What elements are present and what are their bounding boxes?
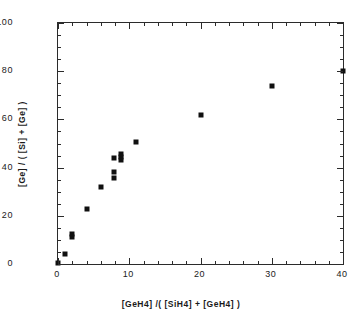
y-axis-minor-tick-right — [340, 252, 343, 253]
x-axis-minor-tick — [315, 261, 316, 264]
y-axis-major-tick-right — [337, 216, 343, 217]
x-axis-major-tick — [201, 258, 202, 264]
y-axis-minor-tick — [58, 47, 61, 48]
data-point — [70, 231, 75, 236]
y-axis-major-tick — [58, 71, 64, 72]
x-axis-tick-label: 0 — [54, 270, 60, 279]
x-axis-minor-tick-top — [315, 23, 316, 26]
x-axis-minor-tick-top — [172, 23, 173, 26]
x-axis-minor-tick-top — [329, 23, 330, 26]
x-axis-minor-tick — [87, 261, 88, 264]
data-point — [111, 176, 116, 181]
y-axis-major-tick — [58, 119, 64, 120]
x-axis-minor-tick-top — [115, 23, 116, 26]
y-axis-minor-tick — [58, 83, 61, 84]
x-axis-minor-tick — [186, 261, 187, 264]
y-axis-minor-tick — [58, 192, 61, 193]
y-axis-minor-tick — [58, 228, 61, 229]
x-axis-major-tick-top — [129, 23, 130, 29]
y-axis-minor-tick-right — [340, 59, 343, 60]
y-axis-minor-tick — [58, 204, 61, 205]
x-axis-major-tick — [129, 258, 130, 264]
x-axis-minor-tick — [300, 261, 301, 264]
y-axis-minor-tick-right — [340, 204, 343, 205]
y-axis-tick-label: 0 — [7, 259, 13, 268]
y-axis-minor-tick-right — [340, 95, 343, 96]
data-point — [198, 112, 203, 117]
x-axis-tick-label: 30 — [265, 270, 276, 279]
x-axis-minor-tick — [258, 261, 259, 264]
y-axis-major-tick — [58, 216, 64, 217]
plot-area — [57, 22, 344, 265]
x-axis-minor-tick-top — [229, 23, 230, 26]
x-axis-minor-tick — [172, 261, 173, 264]
x-axis-minor-tick — [229, 261, 230, 264]
y-axis-minor-tick — [58, 180, 61, 181]
y-axis-major-tick-right — [337, 71, 343, 72]
x-axis-minor-tick — [215, 261, 216, 264]
y-axis-minor-tick-right — [340, 107, 343, 108]
y-axis-tick-label: 100 — [0, 18, 13, 27]
y-axis-minor-tick — [58, 107, 61, 108]
y-axis-minor-tick-right — [340, 144, 343, 145]
x-axis-minor-tick-top — [101, 23, 102, 26]
y-axis-major-tick — [58, 264, 64, 265]
x-axis-minor-tick-top — [158, 23, 159, 26]
y-axis-minor-tick-right — [340, 131, 343, 132]
x-axis-major-tick — [272, 258, 273, 264]
x-axis-minor-tick — [115, 261, 116, 264]
x-axis-major-tick-top — [343, 23, 344, 29]
data-point — [134, 140, 139, 145]
y-axis-title: [Ge] / ( [Si] + [Ge] ) — [17, 101, 27, 187]
x-axis-minor-tick-top — [215, 23, 216, 26]
x-axis-tick-label: 10 — [123, 270, 134, 279]
x-axis-minor-tick — [158, 261, 159, 264]
data-point — [269, 83, 274, 88]
data-point — [84, 206, 89, 211]
x-axis-minor-tick-top — [87, 23, 88, 26]
x-axis-minor-tick — [286, 261, 287, 264]
y-axis-minor-tick — [58, 95, 61, 96]
y-axis-minor-tick — [58, 252, 61, 253]
x-axis-minor-tick — [101, 261, 102, 264]
data-point — [111, 155, 116, 160]
y-axis-minor-tick — [58, 144, 61, 145]
y-axis-minor-tick-right — [340, 156, 343, 157]
x-axis-minor-tick-top — [286, 23, 287, 26]
x-axis-major-tick — [58, 258, 59, 264]
x-axis-major-tick-top — [58, 23, 59, 29]
data-point — [63, 252, 68, 257]
y-axis-minor-tick-right — [340, 240, 343, 241]
y-axis-minor-tick-right — [340, 35, 343, 36]
y-axis-major-tick-right — [337, 264, 343, 265]
y-axis-major-tick — [58, 168, 64, 169]
data-point — [111, 170, 116, 175]
x-axis-minor-tick — [243, 261, 244, 264]
y-axis-minor-tick-right — [340, 228, 343, 229]
y-axis-tick-label: 20 — [2, 210, 13, 219]
figure-canvas: [Ge] / ( [Si] + [Ge] ) [GeH4] /( [SiH4] … — [0, 0, 362, 328]
x-axis-minor-tick-top — [72, 23, 73, 26]
x-axis-tick-label: 20 — [194, 270, 205, 279]
y-axis-tick-label: 40 — [2, 162, 13, 171]
y-axis-tick-label: 80 — [2, 66, 13, 75]
x-axis-minor-tick-top — [258, 23, 259, 26]
x-axis-major-tick-top — [272, 23, 273, 29]
x-axis-minor-tick — [144, 261, 145, 264]
y-axis-major-tick-right — [337, 119, 343, 120]
data-point — [98, 184, 103, 189]
x-axis-title: [GeH4] /( [SiH4] + [GeH4] ) — [0, 299, 362, 309]
data-point — [118, 152, 123, 157]
y-axis-minor-tick — [58, 59, 61, 60]
x-axis-major-tick — [343, 258, 344, 264]
x-axis-minor-tick-top — [243, 23, 244, 26]
y-axis-minor-tick — [58, 240, 61, 241]
y-axis-tick-label: 60 — [2, 114, 13, 123]
x-axis-minor-tick — [72, 261, 73, 264]
y-axis-minor-tick-right — [340, 83, 343, 84]
y-axis-minor-tick — [58, 156, 61, 157]
x-axis-tick-label: 40 — [336, 270, 347, 279]
y-axis-title-container: [Ge] / ( [Si] + [Ge] ) — [10, 0, 34, 287]
y-axis-minor-tick — [58, 131, 61, 132]
x-axis-minor-tick — [329, 261, 330, 264]
